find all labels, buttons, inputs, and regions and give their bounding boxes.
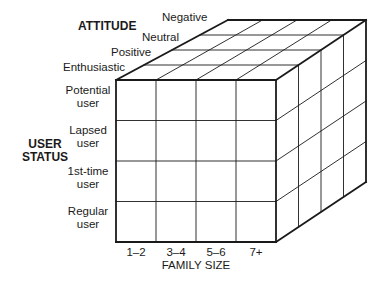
family-size-level-1-2: 1–2 — [116, 246, 156, 259]
user-status-level-first-time: 1st-time user — [60, 165, 116, 191]
family-size-axis-title: FAMILY SIZE — [136, 259, 256, 272]
attitude-axis-title: ATTITUDE — [78, 20, 136, 33]
attitude-level-negative: Negative — [162, 11, 207, 24]
level-line2: user — [60, 137, 116, 150]
level-line2: user — [60, 178, 116, 191]
family-size-level-3-4: 3–4 — [156, 246, 196, 259]
attitude-level-enthusiastic: Enthusiastic — [63, 61, 125, 74]
level-line2: user — [60, 97, 116, 110]
level-line2: user — [60, 218, 116, 231]
family-size-level-7-plus: 7+ — [236, 246, 276, 259]
user-status-level-potential: Potential user — [60, 84, 116, 110]
user-status-level-lapsed: Lapsed user — [60, 124, 116, 150]
level-line1: Regular — [60, 205, 116, 218]
attitude-level-positive: Positive — [111, 46, 151, 59]
user-status-level-regular: Regular user — [60, 205, 116, 231]
level-line1: Lapsed — [60, 124, 116, 137]
attitude-level-neutral: Neutral — [142, 31, 179, 44]
family-size-level-5-6: 5–6 — [196, 246, 236, 259]
level-line1: 1st-time — [60, 165, 116, 178]
user-status-title-line2: STATUS — [20, 151, 70, 164]
level-line1: Potential — [60, 84, 116, 97]
